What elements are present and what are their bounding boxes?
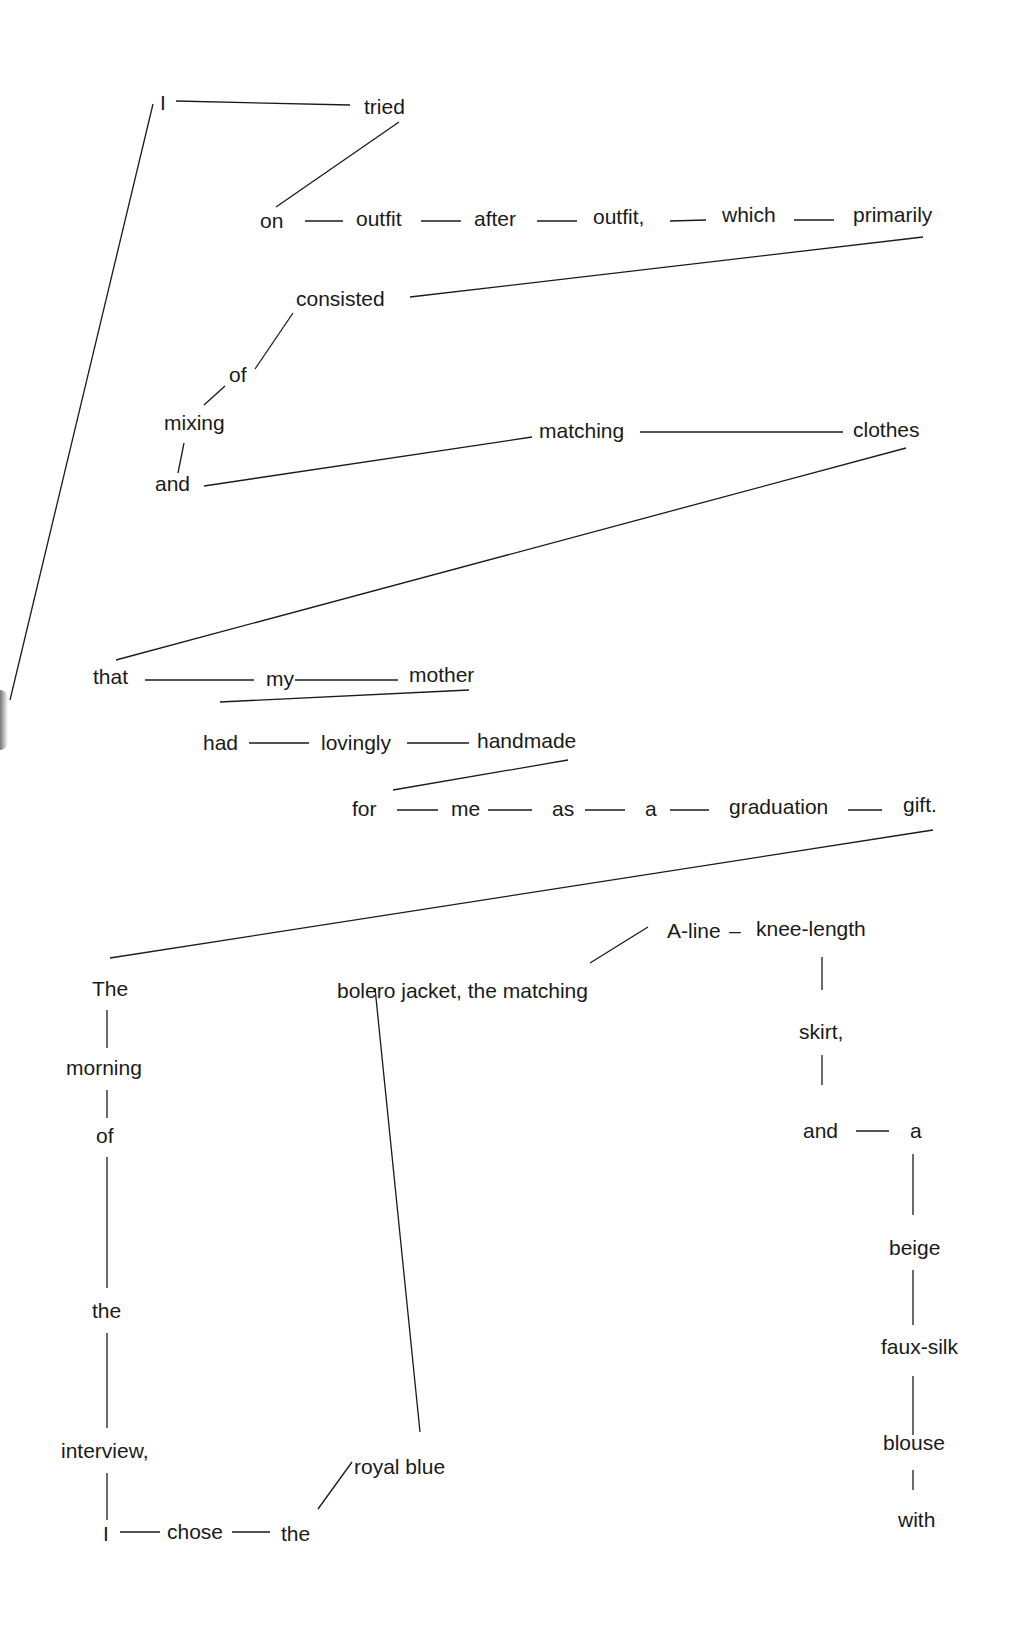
word-w_graduation: graduation [729, 795, 828, 818]
connector-line [276, 122, 399, 207]
connector-line [204, 386, 225, 405]
word-w_morning: morning [66, 1056, 142, 1079]
connector-line [204, 437, 532, 486]
word-w_I1: I [160, 91, 166, 114]
word-w_clothes: clothes [853, 418, 920, 441]
word-w_after: after [474, 207, 516, 230]
word-w_kneelength: knee-length [756, 917, 866, 940]
word-w_which: which [721, 203, 776, 226]
word-w_interview: interview, [61, 1439, 149, 1462]
connector-line [590, 927, 648, 963]
word-w_matching1: matching [539, 419, 624, 442]
word-w_skirt: skirt, [799, 1020, 843, 1043]
connector-line [670, 220, 706, 221]
word-w_blouse: blouse [883, 1431, 945, 1454]
word-w_of2: of [96, 1124, 114, 1147]
word-w_a1: a [645, 797, 657, 820]
word-w_chose: chose [167, 1520, 223, 1543]
word-w_dash: – [729, 919, 741, 942]
connector-line [220, 690, 469, 702]
word-w_consisted: consisted [296, 287, 385, 310]
word-w_mother: mother [409, 663, 474, 686]
diagram-words: Itriedonoutfitafteroutfit,whichprimarily… [61, 91, 959, 1545]
word-w_as: as [552, 797, 574, 820]
word-w_with: with [897, 1508, 935, 1531]
word-w_a2: a [910, 1119, 922, 1142]
word-w_tried: tried [364, 95, 405, 118]
connector-line [116, 448, 906, 660]
sentence-diagram: Itriedonoutfitafteroutfit,whichprimarily… [0, 0, 1034, 1643]
connector-line [178, 443, 184, 473]
word-w_had: had [203, 731, 238, 754]
word-w_for: for [352, 797, 377, 820]
word-w_fauxsilk: faux-silk [881, 1335, 959, 1358]
word-w_me: me [451, 797, 480, 820]
word-w_handmade: handmade [477, 729, 576, 752]
word-w_bolero: bolero jacket, the matching [337, 979, 588, 1002]
connector-line [393, 760, 568, 790]
word-w_primarily: primarily [853, 203, 933, 226]
connector-line [375, 988, 420, 1432]
word-w_gift: gift. [903, 793, 937, 816]
word-w_on: on [260, 209, 283, 232]
word-w_beige: beige [889, 1236, 940, 1259]
word-w_the1: the [92, 1299, 121, 1322]
connector-line [176, 101, 350, 105]
word-w_lovingly: lovingly [321, 731, 392, 754]
connector-line [318, 1462, 352, 1509]
word-w_Aline: A-line [667, 919, 721, 942]
word-w_outfit1: outfit [356, 207, 402, 230]
word-w_I2: I [103, 1522, 109, 1545]
connector-line [10, 104, 153, 700]
word-w_and1: and [155, 472, 190, 495]
word-w_that: that [93, 665, 128, 688]
word-w_mixing: mixing [164, 411, 225, 434]
connector-line [410, 237, 923, 297]
connector-line [255, 313, 293, 369]
word-w_The: The [92, 977, 128, 1000]
word-w_outfit2: outfit, [593, 205, 644, 228]
word-w_my: my [266, 667, 294, 690]
word-w_of1: of [229, 363, 247, 386]
word-w_and2: and [803, 1119, 838, 1142]
word-w_royalblue: royal blue [354, 1455, 445, 1478]
word-w_the2: the [281, 1522, 310, 1545]
